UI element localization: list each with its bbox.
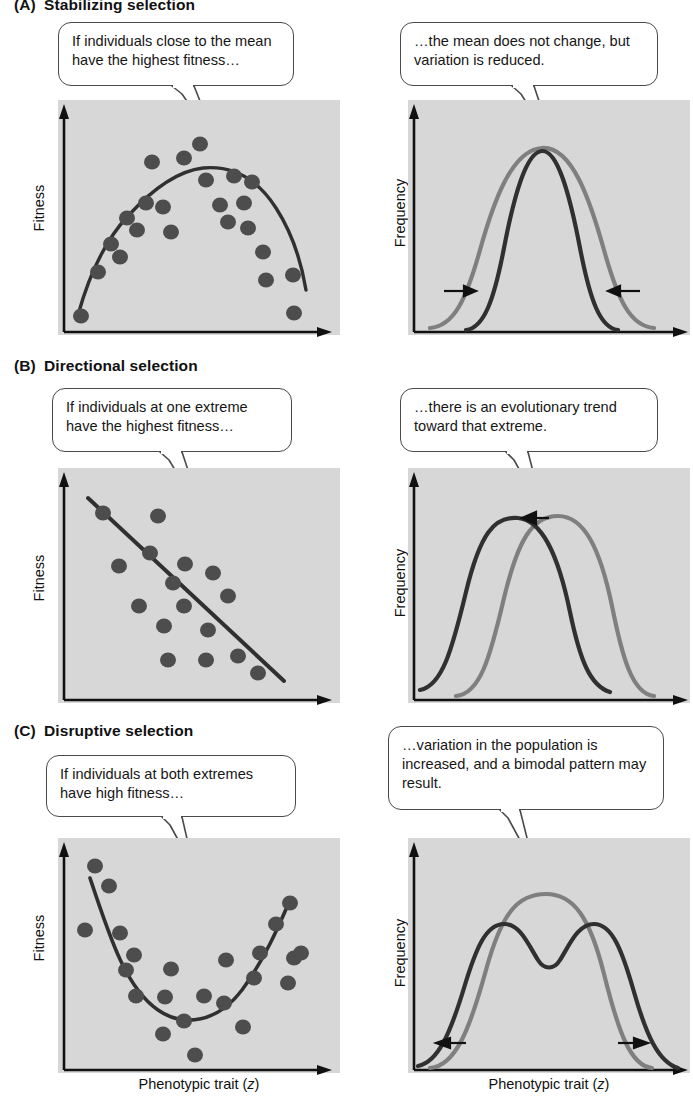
- axis-label-fitness-a: Fitness: [31, 163, 47, 253]
- plot-c-right: [408, 838, 690, 1073]
- callout-a-right: …the mean does not change, but variation…: [400, 22, 658, 98]
- callout-b-right: …there is an evolutionary trend toward t…: [400, 388, 658, 464]
- callout-b-left: If individuals at one extreme have the h…: [52, 388, 292, 464]
- scatter-points-a-left: [73, 137, 302, 324]
- section-title-c: Disruptive selection: [44, 722, 193, 739]
- panel-c-left: [58, 838, 340, 1073]
- section-title-a: Stabilizing selection: [44, 0, 195, 13]
- arrow-inward-left-a: [444, 286, 476, 296]
- section-letter-c: (C): [14, 722, 44, 740]
- axis-label-frequency-c: Frequency: [392, 893, 408, 1013]
- axis-label-x-right: Phenotypic trait (z): [408, 1076, 690, 1092]
- plot-a-left: [58, 100, 340, 335]
- section-title-b: Directional selection: [44, 357, 198, 374]
- axis-label-fitness-b: Fitness: [31, 533, 47, 623]
- axis-label-x-right-text: Phenotypic trait (z): [489, 1076, 610, 1092]
- plot-c-left: [58, 838, 340, 1073]
- callout-c-left: If individuals at both extremes have hig…: [46, 755, 296, 831]
- callout-a-right-text: …the mean does not change, but variation…: [400, 22, 658, 86]
- axis-label-x-left-text: Phenotypic trait (z): [139, 1076, 260, 1092]
- axis-label-frequency-b: Frequency: [392, 523, 408, 643]
- scatter-points-b-left: [95, 506, 266, 681]
- arrow-inward-right-a: [608, 286, 640, 296]
- panel-a-right: [408, 100, 690, 335]
- plot-b-right: [408, 468, 690, 703]
- scatter-points-c-left: [77, 859, 309, 1063]
- callout-a-left-text: If individuals close to the mean have th…: [58, 22, 294, 86]
- section-header-b: (B)Directional selection: [14, 357, 198, 375]
- callout-c-left-text: If individuals at both extremes have hig…: [46, 755, 296, 817]
- section-header-a: (A)Stabilizing selection: [14, 0, 195, 14]
- callout-b-right-text: …there is an evolutionary trend toward t…: [400, 388, 658, 452]
- section-letter-a: (A): [14, 0, 44, 14]
- axis-label-fitness-c: Fitness: [31, 893, 47, 983]
- panel-a-left: [58, 100, 340, 335]
- panel-b-left: [58, 468, 340, 703]
- plot-a-right: [408, 100, 690, 335]
- plot-b-left: [58, 468, 340, 703]
- axis-label-x-left: Phenotypic trait (z): [58, 1076, 340, 1092]
- section-letter-b: (B): [14, 357, 44, 375]
- callout-a-left: If individuals close to the mean have th…: [58, 22, 294, 98]
- callout-c-right-text: …variation in the population is increase…: [388, 726, 664, 810]
- panel-c-right: [408, 838, 690, 1073]
- selection-types-figure: (A)Stabilizing selection If individuals …: [0, 0, 693, 1101]
- callout-c-right: …variation in the population is increase…: [388, 726, 664, 826]
- axis-label-frequency-a: Frequency: [392, 153, 408, 273]
- callout-b-left-text: If individuals at one extreme have the h…: [52, 388, 292, 452]
- section-header-c: (C)Disruptive selection: [14, 722, 193, 740]
- panel-b-right: [408, 468, 690, 703]
